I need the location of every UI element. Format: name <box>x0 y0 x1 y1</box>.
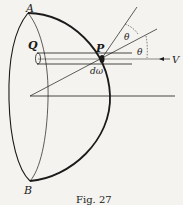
base-ellipse-front <box>9 13 30 181</box>
label-Q: Q <box>28 39 38 52</box>
label-theta-upper: θ <box>124 32 130 42</box>
incident-direction-line <box>102 7 137 58</box>
theta-arc-lower <box>146 36 147 58</box>
hemisphere-diagram: A B Q P θ θ V dω Fig. 27 <box>0 0 183 205</box>
label-P: P <box>95 42 105 55</box>
radius-line <box>30 29 157 96</box>
velocity-arrow-head-icon <box>159 57 164 61</box>
area-element-d-omega <box>100 55 105 63</box>
label-d-omega: dω <box>90 66 104 76</box>
label-theta-lower: θ <box>137 47 143 57</box>
label-B: B <box>23 184 32 197</box>
tube-end <box>36 53 41 64</box>
figure-caption: Fig. 27 <box>76 194 112 205</box>
label-A: A <box>25 2 34 15</box>
label-V: V <box>172 54 181 65</box>
